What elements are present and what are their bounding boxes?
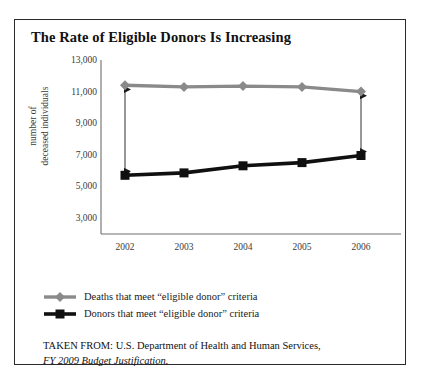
chart-title: The Rate of Eligible Donors Is Increasin… [31, 29, 291, 46]
source-line-1: TAKEN FROM: U.S. Department of Health an… [43, 338, 393, 353]
data-point-donors-2002 [121, 171, 130, 180]
data-point-deaths-2006 [356, 87, 366, 97]
source-attribution: TAKEN FROM: U.S. Department of Health an… [43, 338, 393, 368]
legend-item-deaths: Deaths that meet “eligible donor” criter… [43, 288, 383, 305]
figure-border: The Rate of Eligible Donors Is Increasin… [14, 19, 406, 365]
data-point-donors-2004 [239, 161, 248, 170]
legend-item-donors: Donors that meet “eligible donor” criter… [43, 305, 383, 322]
data-point-deaths-2003 [179, 82, 189, 92]
data-point-donors-2005 [298, 158, 307, 167]
legend-swatch-donors [43, 307, 77, 321]
data-point-donors-2006 [357, 151, 366, 160]
data-point-donors-2003 [180, 168, 189, 177]
legend-label-deaths: Deaths that meet “eligible donor” criter… [84, 291, 257, 302]
data-point-deaths-2005 [297, 82, 307, 92]
chart-legend: Deaths that meet “eligible donor” criter… [43, 288, 383, 322]
chart-plot-svg [15, 56, 407, 264]
data-point-deaths-2004 [238, 81, 248, 91]
legend-swatch-deaths [43, 290, 77, 304]
plot-region: number of deceased individuals 13,000 11… [15, 56, 407, 264]
data-point-deaths-2002 [120, 80, 130, 90]
legend-label-donors: Donors that meet “eligible donor” criter… [84, 308, 259, 319]
source-line-2: FY 2009 Budget Justification. [43, 353, 393, 368]
